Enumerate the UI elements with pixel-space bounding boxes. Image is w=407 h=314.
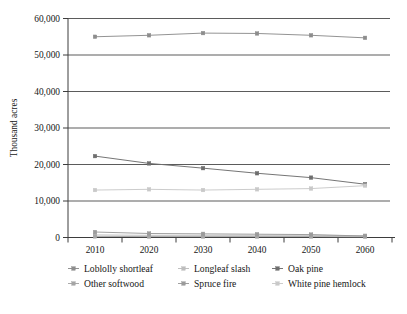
x-tick-label-2050: 2050	[302, 245, 321, 255]
x-tick-label-2010: 2010	[86, 245, 105, 255]
legend-label: Longleaf slash	[194, 263, 250, 274]
data-point-marker	[255, 232, 259, 236]
chart-figure: Thousand acres 60,000 50,000 40,000	[0, 0, 407, 314]
legend-marker-square	[276, 267, 280, 271]
data-point-marker	[201, 188, 205, 192]
data-point-marker	[201, 166, 205, 170]
data-point-marker	[93, 35, 97, 39]
x-tick-label-2040: 2040	[248, 245, 267, 255]
data-point-marker	[93, 154, 97, 158]
x-tick-label-2020: 2020	[140, 245, 159, 255]
data-point-marker	[255, 171, 259, 175]
x-tick-label-2060: 2060	[356, 245, 375, 255]
y-tick-label-30000: 30,000	[34, 123, 60, 133]
y-axis-title: Thousand acres	[9, 98, 19, 157]
data-point-marker	[363, 234, 367, 238]
legend-marker-square	[182, 267, 186, 271]
x-tick-label-2030: 2030	[194, 245, 213, 255]
legend-label: Other softwood	[84, 278, 144, 289]
data-point-marker	[255, 32, 259, 36]
data-point-marker	[201, 232, 205, 236]
legend-marker-square	[72, 267, 76, 271]
y-tick-label-0: 0	[55, 233, 60, 243]
legend-marker-square	[276, 282, 280, 286]
data-point-marker	[93, 235, 97, 239]
data-point-marker	[363, 36, 367, 40]
data-point-marker	[147, 232, 151, 236]
y-tick-label-60000: 60,000	[34, 14, 60, 24]
data-point-marker	[201, 31, 205, 35]
data-point-marker	[309, 33, 313, 37]
legend-label: Oak pine	[288, 263, 323, 274]
y-tick-label-50000: 50,000	[34, 50, 60, 60]
legend-marker-square	[182, 282, 186, 286]
legend-label: Spruce fire	[194, 278, 236, 289]
legend-marker-square	[72, 282, 76, 286]
legend-label: White pine hemlock	[288, 278, 366, 289]
y-tick-label-20000: 20,000	[34, 160, 60, 170]
data-point-marker	[309, 176, 313, 180]
line-chart: Thousand acres 60,000 50,000 40,000	[0, 0, 407, 314]
y-tick-label-40000: 40,000	[34, 87, 60, 97]
y-tick-label-10000: 10,000	[34, 196, 60, 206]
data-point-marker	[363, 184, 367, 188]
data-point-marker	[309, 187, 313, 191]
data-point-marker	[255, 188, 259, 192]
data-point-marker	[147, 162, 151, 166]
data-point-marker	[93, 230, 97, 234]
legend-label: Loblolly shortleaf	[84, 263, 154, 274]
data-point-marker	[147, 33, 151, 37]
data-point-marker	[93, 188, 97, 192]
data-point-marker	[147, 188, 151, 192]
data-point-marker	[309, 233, 313, 237]
